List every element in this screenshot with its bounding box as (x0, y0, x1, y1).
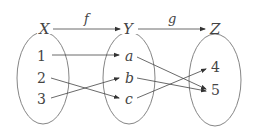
function-composition-diagram: X Y Z f g 1 2 3 a b c 4 5 (0, 0, 253, 134)
x-element-2: 2 (37, 70, 46, 86)
f-label: f (83, 11, 91, 26)
set-z-label: Z (209, 20, 221, 38)
y-element-c: c (125, 91, 133, 107)
z-element-5: 5 (211, 82, 220, 98)
y-element-b: b (125, 70, 134, 86)
set-z-ellipse (189, 34, 241, 126)
x-element-1: 1 (37, 48, 46, 64)
y-element-a: a (125, 48, 133, 64)
diagram-canvas: X Y Z f g 1 2 3 a b c 4 5 (0, 0, 253, 134)
g-label: g (168, 11, 176, 26)
x-element-3: 3 (37, 91, 46, 107)
z-element-4: 4 (211, 59, 220, 75)
set-x-label: X (38, 20, 51, 38)
